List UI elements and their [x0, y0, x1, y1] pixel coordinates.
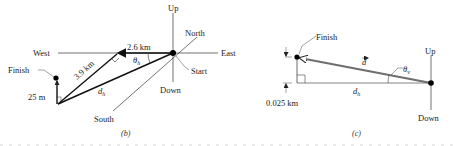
theta-h-label: θh: [133, 55, 140, 66]
start-leader: [176, 56, 189, 70]
right-angle-mark-c: [297, 75, 305, 83]
axis-label-down: Down: [160, 85, 182, 95]
axis-label-south: South: [94, 114, 115, 124]
axis-label-up: Up: [168, 3, 178, 13]
theta-v-leader: [391, 68, 403, 75]
theta-v-label: θv: [403, 64, 410, 75]
panel-c: Finish Up Down d θv dh 0.025 km (c): [266, 32, 440, 138]
axis-label-north: North: [185, 28, 206, 38]
axis-label-east: East: [221, 48, 236, 58]
panel-b-caption: (b): [121, 129, 131, 138]
panel-c-caption: (c): [352, 129, 361, 138]
dh-label-c: dh: [353, 86, 360, 97]
theta-h-arc: [148, 53, 150, 63]
theta-v-arc: [388, 75, 389, 83]
start-label: Start: [191, 66, 208, 76]
leg-25m-label: 25 m: [28, 92, 46, 102]
axis-label-up-c: Up: [425, 46, 435, 56]
finish-leader: [38, 70, 54, 77]
dh-label: dh: [98, 86, 105, 97]
finish-point: [53, 75, 58, 80]
start-point-c: [428, 80, 434, 86]
panel-b: Up Down North South East West Start Fini…: [8, 3, 236, 138]
finish-label-c: Finish: [316, 32, 338, 42]
finish-point-c: [294, 54, 299, 59]
height-label: 0.025 km: [266, 98, 299, 108]
diagram-canvas: Up Down North South East West Start Fini…: [0, 0, 453, 146]
start-point: [170, 50, 176, 56]
axis-label-west: West: [33, 48, 50, 58]
leg-3-9km-label: 3.9 km: [72, 58, 97, 81]
finish-label: Finish: [8, 65, 30, 75]
finish-leader-c: [299, 36, 316, 54]
leg-2-6km-label: 2.6 km: [127, 42, 151, 52]
axis-label-down-c: Down: [418, 113, 440, 123]
d-vector-label: d: [362, 57, 367, 67]
